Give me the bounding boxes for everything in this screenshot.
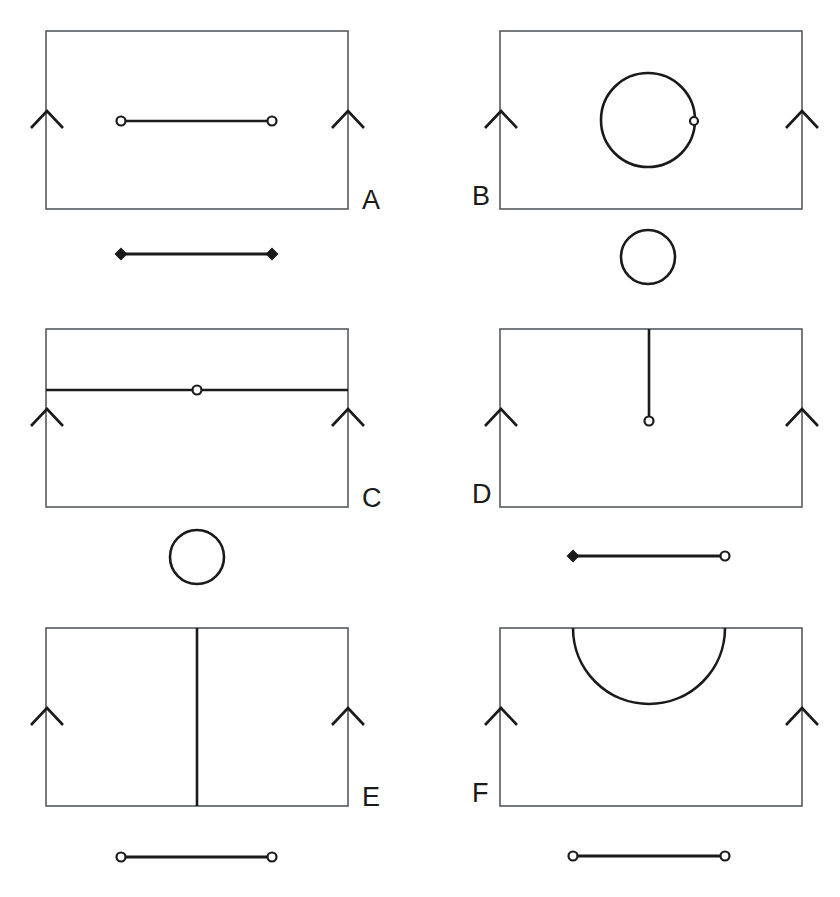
- panel-c-legend-circle: [170, 530, 224, 584]
- panel-a: A: [31, 31, 380, 260]
- panel-f-chevron-left-icon: [485, 708, 517, 725]
- panel-e-chevron-left-icon: [31, 708, 63, 725]
- panel-c-chevron-left-icon: [31, 409, 63, 426]
- panel-b-legend-circle: [621, 230, 675, 284]
- panel-b-label: B: [472, 181, 490, 211]
- panel-a-legend-endpoint-right-diamond-icon: [267, 249, 278, 260]
- panel-d-label: D: [472, 479, 492, 509]
- figure-root: A B C: [0, 0, 840, 897]
- panel-c-frame: [46, 329, 348, 507]
- panel-f-legend-endpoint-right-open-circle-icon: [721, 852, 730, 861]
- panel-d-feature-endpoint-open-circle-icon: [645, 417, 654, 426]
- panel-a-feature-endpoint-left-open-circle-icon: [117, 117, 126, 126]
- panel-b: B: [472, 31, 818, 284]
- panel-e: E: [31, 628, 380, 862]
- panel-f-frame: [500, 628, 802, 806]
- panel-c-label: C: [362, 483, 382, 513]
- panel-b-feature-circle: [601, 73, 695, 167]
- panel-f-legend-endpoint-left-open-circle-icon: [569, 852, 578, 861]
- panel-d-legend-endpoint-right-open-circle-icon: [721, 552, 730, 561]
- panel-f-feature-semicircle-arc: [573, 628, 725, 704]
- panel-e-legend-endpoint-right-open-circle-icon: [268, 853, 277, 862]
- panel-b-feature-marker-open-circle-icon: [690, 117, 698, 125]
- panel-a-legend-endpoint-left-diamond-icon: [116, 249, 127, 260]
- panel-b-chevron-left-icon: [485, 111, 517, 128]
- panel-a-label: A: [362, 185, 380, 215]
- panel-e-legend-endpoint-left-open-circle-icon: [117, 853, 126, 862]
- panel-b-frame: [500, 31, 802, 209]
- six-panel-diagram: A B C: [0, 0, 840, 897]
- panel-a-chevron-left-icon: [31, 111, 63, 128]
- panel-f: F: [472, 628, 818, 861]
- panel-d-legend-endpoint-left-diamond-icon: [568, 551, 579, 562]
- panel-a-feature-endpoint-right-open-circle-icon: [268, 117, 277, 126]
- panel-d: D: [472, 329, 818, 562]
- panel-d-chevron-left-icon: [485, 409, 517, 426]
- panel-f-label: F: [472, 778, 489, 808]
- panel-e-label: E: [362, 782, 380, 812]
- panel-c-feature-marker-open-circle-icon: [193, 386, 202, 395]
- panel-c: C: [31, 329, 382, 584]
